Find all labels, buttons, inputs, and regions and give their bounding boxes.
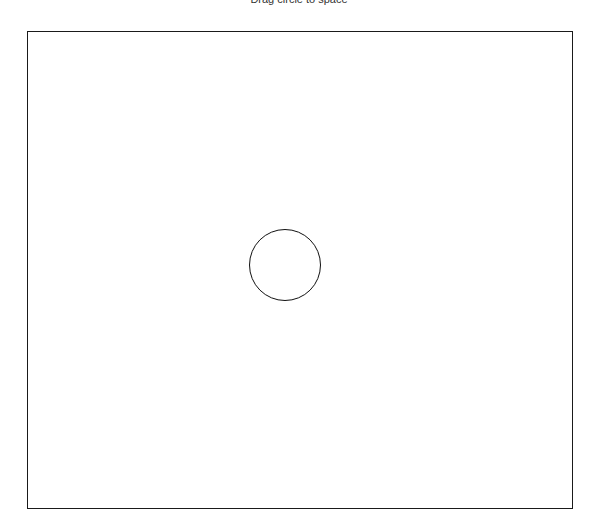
drop-area[interactable] xyxy=(27,31,573,509)
draggable-circle[interactable] xyxy=(249,229,321,301)
task-title: Drag circle to space xyxy=(0,0,598,5)
